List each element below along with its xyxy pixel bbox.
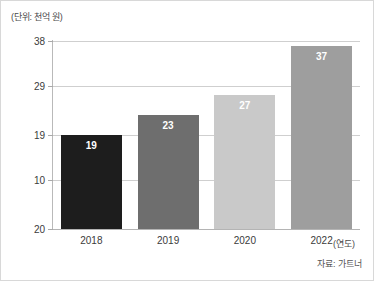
y-axis-tick-label: 38 [5,36,45,47]
y-axis-tick-label: 10 [5,174,45,185]
bar-2019: 23 [138,115,199,229]
y-axis-tick-mark [48,41,53,42]
x-axis-unit-label: (연도) [333,237,355,250]
y-axis-tick-mark [48,135,53,136]
bar-chart-figure: (단위: 천억 원) 3829191020 19232737 201820192… [0,0,374,281]
x-axis-tick-label: 2020 [234,235,256,246]
x-axis-tick-label: 2018 [80,235,102,246]
y-axis-tick-label: 20 [5,224,45,235]
gridline [53,229,360,230]
plot-area: 19232737 [53,41,360,229]
y-axis-tick-mark [48,86,53,87]
bar-2018: 19 [61,135,122,229]
bar-value-label: 19 [61,140,122,151]
y-axis-tick-mark [48,180,53,181]
source-note: 자료: 가트너 [317,257,362,270]
y-axis-tick-label: 19 [5,130,45,141]
gridline [53,41,360,42]
bar-value-label: 37 [291,51,352,62]
bar-value-label: 23 [138,120,199,131]
y-axis-tick-mark [48,229,53,230]
x-axis-tick-label: 2022 [311,235,333,246]
y-axis-tick-label: 29 [5,80,45,91]
bar-2022: 37 [291,46,352,229]
bar-value-label: 27 [214,100,275,111]
x-axis-tick-label: 2019 [157,235,179,246]
y-axis-labels: 3829191020 [1,1,45,281]
bar-2020: 27 [214,95,275,229]
x-axis-labels: 2018201920202022 [53,235,360,251]
